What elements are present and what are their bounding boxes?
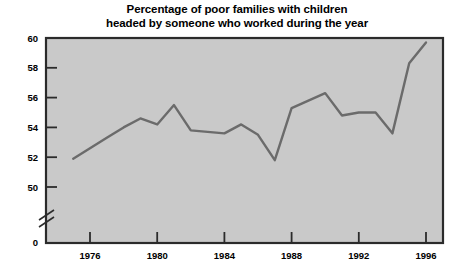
- x-axis-tick-labels: 197619801984198819921996: [79, 250, 436, 261]
- y-axis-tick-label: 0: [33, 237, 38, 248]
- x-axis-tick-label: 1988: [281, 250, 302, 261]
- y-axis-tick-label: 54: [27, 122, 38, 133]
- y-axis-tick-label: 60: [27, 33, 38, 44]
- y-axis-tick-labels: 6058565452500: [27, 33, 38, 248]
- y-axis-tick-label: 50: [27, 182, 38, 193]
- chart-svg: 6058565452500 197619801984198819921996: [0, 0, 474, 275]
- x-axis-tick-label: 1984: [214, 250, 236, 261]
- x-axis-tick-label: 1980: [147, 250, 168, 261]
- chart-container: Percentage of poor families with childre…: [0, 0, 474, 275]
- plot-area-background: [46, 38, 443, 243]
- x-axis-tick-label: 1976: [79, 250, 100, 261]
- x-axis-tick-label: 1996: [415, 250, 436, 261]
- x-axis-tick-label: 1992: [348, 250, 369, 261]
- y-axis-tick-label: 56: [27, 92, 38, 103]
- y-axis-tick-label: 58: [27, 62, 38, 73]
- y-axis-tick-label: 52: [27, 152, 38, 163]
